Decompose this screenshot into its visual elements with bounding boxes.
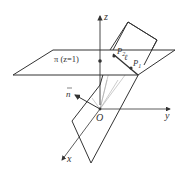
z-intercept-dot (98, 59, 102, 63)
diagram-svg: z y x O π (z=1) n P2 P1 ℓ (0, 0, 185, 173)
origin-label: O (96, 112, 103, 123)
origin-dot (99, 108, 102, 111)
x-label: x (66, 153, 72, 164)
plane-pi (13, 50, 175, 75)
plane-label: π (z=1) (54, 54, 79, 64)
point-p2 (112, 54, 115, 57)
y-label: y (164, 110, 170, 121)
z-label: z (103, 11, 108, 22)
diagram: z y x O π (z=1) n P2 P1 ℓ (0, 0, 185, 173)
normal-label: n (66, 89, 71, 99)
tilted-plane (72, 22, 157, 163)
normal-vector (75, 95, 100, 109)
